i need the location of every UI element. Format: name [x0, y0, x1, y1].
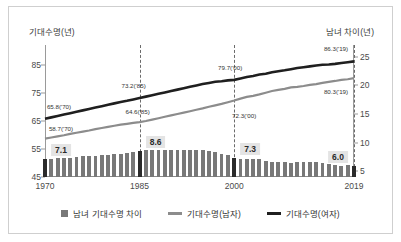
- x-tick-label: 2019: [345, 181, 364, 191]
- data-label: 64.6('85): [125, 108, 149, 115]
- bar-callout: 8.6: [146, 136, 166, 148]
- data-label: 79.7('00): [218, 63, 242, 70]
- right-axis-title: 남녀 차이(년): [326, 25, 374, 37]
- legend-item-1[interactable]: 기대수명(남자): [168, 207, 241, 219]
- data-label: 72.3('00): [232, 111, 256, 118]
- y2-tick-label: 20: [360, 80, 369, 90]
- data-label: 58.7('70): [49, 124, 73, 131]
- legend-label: 기대수명(남자): [187, 207, 241, 219]
- y-tick-label: 65: [32, 116, 41, 126]
- plot-area: 8575655545 252015105 1970198520002019 65…: [45, 51, 354, 177]
- x-tick-label: 1985: [130, 181, 149, 191]
- legend-item-0[interactable]: 남녀 기대수명 차이: [61, 207, 142, 219]
- legend-line-icon: [267, 212, 281, 215]
- legend-square-icon: [61, 210, 68, 217]
- legend-line-icon: [168, 212, 182, 215]
- y2-tick-label: 5: [360, 166, 365, 176]
- y2-tick-label: 15: [360, 109, 369, 119]
- x-tick-label: 2000: [225, 181, 244, 191]
- bar-callout: 7.3: [240, 143, 260, 155]
- line-series-group: [45, 51, 354, 177]
- data-label: 65.8('70): [47, 102, 71, 109]
- x-tick-label: 1970: [36, 181, 55, 191]
- left-axis-title: 기대수명(년): [29, 25, 75, 37]
- y-tick-label: 55: [32, 144, 41, 154]
- data-label: 80.3('19): [324, 88, 348, 95]
- legend-label: 기대수명(여자): [286, 207, 340, 219]
- y-tick-label: 75: [32, 88, 41, 98]
- legend-item-2[interactable]: 기대수명(여자): [267, 207, 340, 219]
- chart-legend: 남녀 기대수명 차이기대수명(남자)기대수명(여자): [9, 207, 392, 219]
- data-label: 73.2('85): [121, 82, 145, 89]
- legend-label: 남녀 기대수명 차이: [73, 207, 142, 219]
- data-label: 86.3('19): [324, 45, 348, 52]
- bar-callout: 6.0: [328, 151, 348, 163]
- marker-line: [354, 45, 355, 177]
- y2-tick-label: 25: [360, 52, 369, 62]
- bar-callout: 7.1: [51, 144, 71, 156]
- y-tick-label: 85: [32, 60, 41, 70]
- chart-frame: 기대수명(년) 남녀 차이(년) 8575655545 252015105 19…: [8, 6, 393, 234]
- y2-tick-label: 10: [360, 138, 369, 148]
